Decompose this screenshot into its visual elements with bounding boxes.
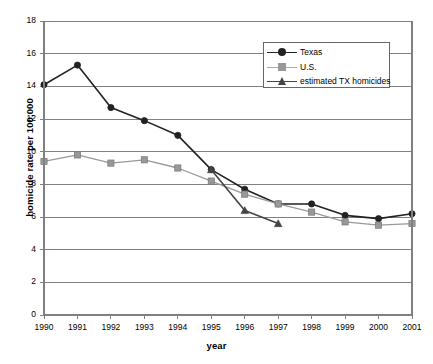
- chart-container: 0246810121416181990199119921993199419951…: [0, 0, 433, 364]
- chart-legend: Texas U.S. estimated TX homicides: [263, 42, 390, 88]
- data-point: [375, 222, 381, 228]
- data-point: [242, 191, 248, 197]
- legend-label-us: U.S.: [300, 62, 317, 72]
- x-axis-title: year: [0, 340, 433, 351]
- y-tick-label: 2: [12, 276, 36, 286]
- y-tick-label: 0: [12, 309, 36, 319]
- legend-label-estimated-tx: estimated TX homicides: [300, 76, 391, 86]
- legend-item-estimated-tx: estimated TX homicides: [267, 74, 391, 88]
- data-point: [175, 132, 181, 138]
- legend-marker-square-icon: [267, 61, 297, 73]
- y-tick-label: 4: [12, 244, 36, 254]
- data-point: [74, 62, 80, 68]
- y-tick-label: 18: [12, 15, 36, 25]
- x-tick-label: 2001: [392, 322, 432, 332]
- y-tick-label: 16: [12, 48, 36, 58]
- series-line-0: [44, 65, 412, 219]
- legend-label-texas: Texas: [300, 47, 322, 57]
- data-point: [275, 201, 281, 207]
- data-point: [342, 219, 348, 225]
- legend-marker-circle-icon: [267, 46, 297, 58]
- legend-marker-triangle-icon: [267, 75, 297, 87]
- legend-item-us: U.S.: [267, 60, 317, 74]
- data-point: [108, 104, 114, 110]
- data-point: [208, 178, 214, 184]
- legend-item-texas: Texas: [267, 45, 322, 59]
- data-point: [108, 160, 114, 166]
- data-point: [141, 157, 147, 163]
- data-point: [342, 212, 348, 218]
- data-point: [74, 152, 80, 158]
- data-point: [175, 165, 181, 171]
- data-point: [309, 209, 315, 215]
- data-point: [375, 216, 381, 222]
- data-point: [141, 118, 147, 124]
- data-point: [309, 201, 315, 207]
- y-axis-title: homicide rate per 100,000: [24, 73, 35, 243]
